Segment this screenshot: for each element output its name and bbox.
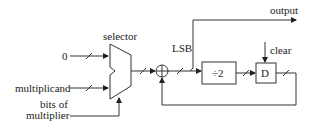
- input-multiplicand-label: multiplicand: [15, 82, 71, 94]
- shift-add-multiplier-diagram: 0 multiplicand bits of multiplier select…: [0, 0, 311, 132]
- output-label: output: [270, 4, 298, 16]
- divide-label: ÷2: [212, 67, 224, 79]
- selector-label: selector: [103, 30, 138, 42]
- input-zero-label: 0: [62, 50, 68, 62]
- selector-mux: [110, 44, 131, 99]
- multiplier-label: multiplier: [26, 109, 70, 121]
- lsb-label: LSB: [172, 42, 192, 54]
- register-label: D: [261, 67, 269, 79]
- select-wire: [70, 98, 119, 116]
- clear-label: clear: [270, 44, 292, 56]
